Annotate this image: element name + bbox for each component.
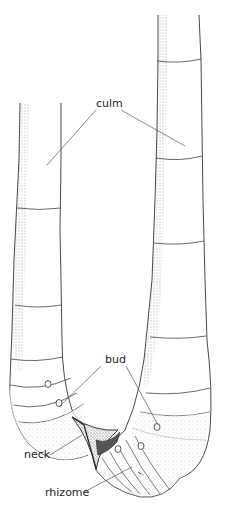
diagram-canvas: [0, 0, 228, 515]
bud-icon: [115, 446, 121, 453]
bud-icon: [138, 443, 144, 450]
rhizome-label: rhizome: [45, 487, 89, 498]
bud-label: bud: [105, 354, 126, 365]
left-culm: [10, 103, 110, 460]
culm-label: culm: [96, 98, 123, 109]
bud-icon: [56, 400, 62, 407]
bud-icon: [45, 381, 51, 388]
right-culm: [95, 15, 211, 479]
bud-icon: [154, 424, 160, 431]
neck-label: neck: [24, 449, 50, 460]
